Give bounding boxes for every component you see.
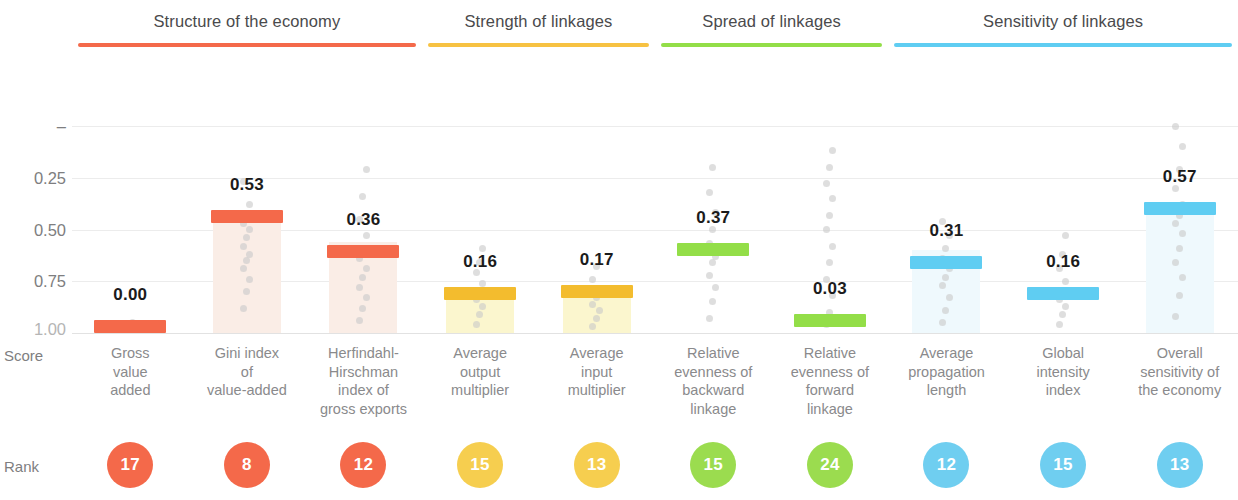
category-label-line: intensity (1008, 363, 1119, 382)
value-label: 0.53 (230, 175, 264, 195)
category-label-line: of (192, 363, 303, 382)
rank-badge[interactable]: 13 (574, 442, 620, 488)
y-axis: 1.000.750.500.25– (0, 0, 66, 360)
value-label: 0.00 (113, 285, 147, 305)
category-label-line: value-added (192, 381, 303, 400)
rank-badge[interactable]: 8 (224, 442, 270, 488)
rank-axis-caption: Rank (4, 459, 39, 474)
category-label: Averageinputmultiplier (541, 344, 652, 400)
data-point-dot (829, 147, 836, 154)
chart-column: 0.31 (888, 0, 1005, 360)
data-point-dot (479, 303, 486, 310)
data-point-dot (476, 311, 483, 318)
rank-badge[interactable]: 12 (923, 442, 969, 488)
value-marker-bar[interactable] (444, 287, 516, 300)
data-point-dot (596, 307, 603, 314)
value-marker-bar[interactable] (677, 243, 749, 256)
category-label-line: Herfindahl- (308, 344, 419, 363)
data-point-dot (823, 180, 830, 187)
data-point-dot (359, 305, 366, 312)
chart-column: 0.57 (1121, 0, 1238, 360)
data-point-dot (359, 274, 366, 281)
chart-column: 0.36 (305, 0, 422, 360)
data-point-dot (363, 294, 370, 301)
category-label-line: input (541, 363, 652, 382)
category-label-line: Relative (775, 344, 886, 363)
rank-badge[interactable]: 15 (457, 442, 503, 488)
chart-column: 0.37 (655, 0, 772, 360)
value-marker-bar[interactable] (1144, 202, 1216, 215)
category-label: Globalintensityindex (1008, 344, 1119, 400)
category-label-line: Overall (1124, 344, 1235, 363)
category-label-row: GrossvalueaddedGini indexofvalue-addedHe… (72, 344, 1238, 434)
data-point-dot (1172, 313, 1179, 320)
data-point-dot (246, 251, 253, 258)
data-point-dot (1172, 259, 1179, 266)
data-point-dot (473, 321, 480, 328)
category-label-line: Average (891, 344, 1002, 363)
distribution-dots (933, 0, 959, 360)
value-marker-bar[interactable] (561, 285, 633, 298)
category-label-line: Gross (75, 344, 186, 363)
rank-badge[interactable]: 17 (107, 442, 153, 488)
rank-badge[interactable]: 15 (1040, 442, 1086, 488)
data-point-dot (243, 257, 250, 264)
distribution-dots (584, 0, 610, 360)
chart-column: 0.00 (72, 0, 189, 360)
data-point-dot (942, 245, 949, 252)
value-label: 0.37 (696, 208, 730, 228)
category-label-line: multiplier (425, 381, 536, 400)
data-point-dot (246, 276, 253, 283)
value-marker-bar[interactable] (910, 256, 982, 269)
value-label: 0.16 (463, 252, 497, 272)
data-point-dot (246, 226, 253, 233)
value-label: 0.16 (1046, 252, 1080, 272)
data-point-dot (1179, 230, 1186, 237)
data-point-dot (363, 232, 370, 239)
data-point-dot (829, 195, 836, 202)
y-axis-tick-label: 0.75 (0, 273, 66, 290)
rank-row: 1781215131524121513 (72, 442, 1238, 500)
value-marker-bar[interactable] (794, 314, 866, 327)
value-marker-bar[interactable] (211, 210, 283, 223)
data-point-dot (356, 284, 363, 291)
category-label: Grossvalueadded (75, 344, 186, 400)
value-marker-bar[interactable] (1027, 287, 1099, 300)
data-point-dot (243, 288, 250, 295)
data-point-dot (826, 259, 833, 266)
rank-badge[interactable]: 13 (1157, 442, 1203, 488)
value-label: 0.31 (930, 221, 964, 241)
data-point-dot (479, 280, 486, 287)
y-axis-tick-label: 0.25 (0, 170, 66, 187)
y-axis-tick-label: 1.00 (0, 321, 66, 338)
distribution-dots (117, 0, 143, 360)
category-label-line: multiplier (541, 381, 652, 400)
data-point-dot (1056, 321, 1063, 328)
category-label-line: length (891, 381, 1002, 400)
data-point-dot (1059, 311, 1066, 318)
category-label: Herfindahl-Hirschmanindex ofgross export… (308, 344, 419, 418)
data-point-dot (939, 319, 946, 326)
category-label-line: Average (541, 344, 652, 363)
category-label: Gini indexofvalue-added (192, 344, 303, 400)
category-label-line: linkage (775, 400, 886, 419)
data-point-dot (823, 226, 830, 233)
value-label: 0.03 (813, 279, 847, 299)
value-marker-bar[interactable] (94, 320, 166, 333)
rank-badge[interactable]: 15 (690, 442, 736, 488)
data-point-dot (1172, 123, 1179, 130)
rank-badge[interactable]: 12 (340, 442, 386, 488)
data-point-dot (706, 272, 713, 279)
value-label: 0.36 (347, 210, 381, 230)
chart-column: 0.03 (772, 0, 889, 360)
value-marker-bar[interactable] (327, 245, 399, 258)
category-label: Averageoutputmultiplier (425, 344, 536, 400)
distribution-dots (350, 0, 376, 360)
data-point-dot (363, 166, 370, 173)
data-point-dot (246, 201, 253, 208)
category-label-line: backward (658, 381, 769, 400)
indicator-scorecard-chart: Structure of the economyStrength of link… (0, 0, 1238, 500)
data-point-dot (1062, 278, 1069, 285)
data-point-dot (942, 307, 949, 314)
rank-badge[interactable]: 24 (807, 442, 853, 488)
